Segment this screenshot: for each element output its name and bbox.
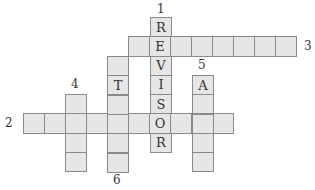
crossword-cell[interactable] xyxy=(128,113,150,134)
crossword-cell[interactable] xyxy=(65,94,87,114)
clue-number-4: 4 xyxy=(71,78,79,90)
crossword-cell[interactable]: R xyxy=(150,17,172,37)
crossword-cell[interactable] xyxy=(23,113,45,134)
crossword-cell[interactable] xyxy=(192,94,214,114)
crossword-cell[interactable]: V xyxy=(150,56,172,76)
crossword-cell[interactable] xyxy=(65,133,87,153)
crossword-cell[interactable] xyxy=(86,113,108,134)
crossword-cell[interactable] xyxy=(44,113,66,134)
crossword-cell[interactable] xyxy=(233,36,255,57)
crossword-cell[interactable] xyxy=(107,153,129,173)
crossword-cell[interactable]: I xyxy=(150,75,172,95)
clue-number-1: 1 xyxy=(157,3,165,15)
crossword-cell[interactable] xyxy=(191,36,213,57)
crossword-cell[interactable]: S xyxy=(150,94,172,114)
clue-number-6: 6 xyxy=(113,174,121,186)
crossword-cell[interactable]: A xyxy=(192,75,214,95)
crossword-cell[interactable] xyxy=(170,36,192,57)
crossword-cell[interactable]: R xyxy=(150,133,172,153)
crossword-cell[interactable] xyxy=(192,133,214,153)
crossword-cell[interactable] xyxy=(107,95,129,115)
crossword-cell[interactable] xyxy=(212,113,234,134)
clue-number-3: 3 xyxy=(304,40,312,52)
crossword-cell[interactable] xyxy=(65,113,87,134)
crossword-cell[interactable] xyxy=(192,114,214,134)
crossword-cell[interactable] xyxy=(192,152,214,172)
crossword-grid: REVISOR1O2E34A5T6 xyxy=(0,0,315,190)
crossword-cell[interactable]: T xyxy=(107,75,129,95)
crossword-cell[interactable] xyxy=(65,152,87,172)
clue-number-2: 2 xyxy=(5,117,13,129)
crossword-cell[interactable] xyxy=(212,36,234,57)
crossword-cell[interactable] xyxy=(170,113,192,134)
crossword-cell[interactable] xyxy=(128,36,150,57)
crossword-cell[interactable]: O xyxy=(149,113,171,134)
crossword-cell[interactable] xyxy=(107,133,129,153)
clue-number-5: 5 xyxy=(198,59,206,71)
crossword-cell[interactable] xyxy=(275,36,297,57)
crossword-cell[interactable] xyxy=(107,56,129,76)
crossword-cell[interactable] xyxy=(107,113,129,134)
crossword-cell[interactable] xyxy=(254,36,276,57)
crossword-cell[interactable]: E xyxy=(149,36,171,57)
